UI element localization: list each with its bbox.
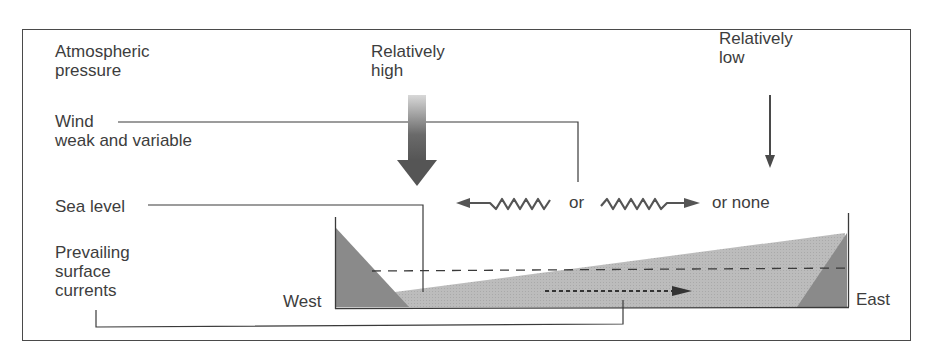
large-down-arrow-icon	[397, 95, 437, 186]
thin-down-arrow-icon	[765, 95, 775, 168]
wavy-left-arrow-icon	[456, 198, 550, 209]
wavy-right-arrow-icon	[601, 198, 700, 209]
west-land	[336, 228, 409, 307]
wind-leader-line	[118, 122, 578, 182]
ocean-basin-diagram	[0, 0, 932, 353]
